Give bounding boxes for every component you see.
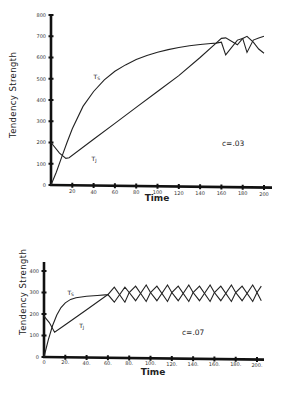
x-axis-line (50, 185, 272, 188)
figure-canvas: Tendency Strength Time c=.03 01002003004… (0, 0, 296, 395)
series-label-t-s: TS (93, 73, 101, 82)
series-line-t-j (44, 285, 261, 332)
x-tick-label: 120 (174, 190, 184, 196)
series-label-subscript: S (71, 292, 74, 297)
x-tick-label: 60. (104, 360, 112, 366)
y-tick-label: 700 (36, 33, 46, 39)
x-tick-label: 20. (61, 359, 69, 365)
x-tick-label: 40. (83, 360, 91, 366)
x-tick-label: 160. (209, 361, 221, 367)
series-line-t-s (44, 286, 261, 357)
series-line-t-s (51, 36, 264, 185)
y-tick-label: 300 (29, 289, 39, 295)
chart-bottom-c007: Tendency Strength Time c=.07 01002003004… (18, 249, 264, 377)
x-tick-label: 80 (133, 189, 139, 195)
x-tick-label: 80. (125, 360, 133, 366)
x-tick-label: 200. (251, 362, 263, 368)
y-tick-label: 100 (36, 161, 46, 167)
series-label-subscript: J (82, 325, 84, 330)
x-tick-label: 100. (145, 360, 157, 366)
series-label-subscript: J (94, 158, 96, 163)
x-tick-label: 60 (112, 189, 118, 195)
x-axis-line (43, 357, 264, 360)
chart-top-c003: Tendency Strength Time c=.03 01002003004… (8, 12, 272, 203)
y-axis-label: Tendency Strength (18, 249, 28, 336)
x-tick-label: 180. (230, 361, 242, 367)
y-tick-label: 200 (29, 311, 39, 317)
y-tick-label: 600 (36, 54, 46, 60)
y-tick-label: 300 (36, 118, 46, 124)
y-tick-label: 400 (36, 97, 46, 103)
series-label-t-s: TS (66, 289, 74, 298)
x-tick-label: 20 (69, 188, 75, 194)
y-axis-label: Tendency Strength (8, 52, 18, 139)
y-tick-label: 100 (29, 332, 39, 338)
x-tick-label: 140 (195, 190, 205, 196)
x-tick-label: 180 (238, 190, 248, 196)
x-tick-label: 200 (259, 191, 269, 197)
x-tick-label: 0 (42, 359, 45, 365)
x-tick-label: 40 (90, 189, 96, 195)
x-tick-label: 140. (188, 361, 200, 367)
y-tick-label: 400 (29, 268, 39, 274)
y-tick-label: 500 (36, 76, 46, 82)
y-tick-label: 800 (36, 12, 46, 18)
series-label-t-j: TJ (90, 155, 96, 164)
x-tick-label: 160 (217, 190, 227, 196)
annotation-c: c=.03 (222, 139, 245, 148)
x-tick-label: 100 (153, 189, 163, 195)
series-label-t-j: TJ (78, 322, 84, 331)
y-tick-label: 200 (36, 139, 46, 145)
x-tick-label: 120. (166, 361, 178, 367)
y-tick-label: 0 (43, 182, 46, 188)
x-axis-label: Time (141, 367, 166, 377)
y-tick-label: 0 (36, 354, 39, 360)
series-label-subscript: S (97, 76, 100, 81)
annotation-c: c=.07 (182, 328, 205, 337)
